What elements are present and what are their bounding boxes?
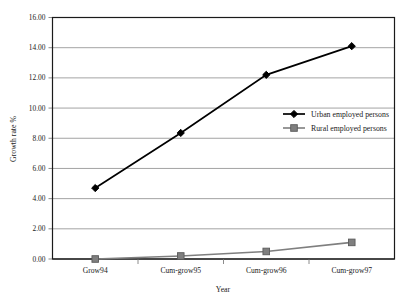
y-tick-label: 10.00: [29, 104, 46, 113]
y-tick-label: 0.00: [33, 255, 46, 264]
x-category-label: Cum-grow95: [161, 266, 202, 275]
y-tick-label: 2.00: [33, 224, 46, 233]
chart-container: 0.002.004.006.008.0010.0012.0014.0016.00…: [0, 0, 420, 307]
legend-marker-square: [291, 125, 298, 132]
legend-label: Rural employed persons: [311, 124, 387, 133]
chart-background: [0, 0, 420, 307]
growth-rate-line-chart: 0.002.004.006.008.0010.0012.0014.0016.00…: [0, 0, 420, 307]
x-axis-title: Year: [216, 285, 231, 294]
x-category-label: Cum-grow97: [332, 266, 373, 275]
x-category-label: Grow94: [83, 266, 108, 275]
legend-label: Urban employed persons: [311, 110, 389, 119]
y-tick-label: 14.00: [29, 43, 46, 52]
data-point-marker-square: [263, 248, 270, 255]
y-tick-label: 4.00: [33, 194, 46, 203]
y-tick-label: 12.00: [29, 73, 46, 82]
y-axis-title: Growth rate %: [9, 116, 18, 162]
x-category-label: Cum-grow96: [246, 266, 287, 275]
data-point-marker-square: [348, 239, 355, 246]
y-tick-label: 16.00: [29, 13, 46, 22]
data-point-marker-square: [92, 256, 99, 263]
y-tick-label: 6.00: [33, 164, 46, 173]
data-point-marker-square: [177, 253, 184, 260]
y-tick-label: 8.00: [33, 134, 46, 143]
